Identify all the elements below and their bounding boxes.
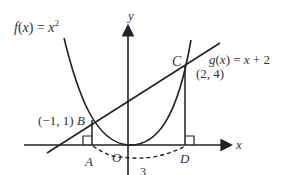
right-angle-A bbox=[83, 136, 92, 145]
dashed-arc bbox=[93, 146, 185, 158]
point-A-label: A bbox=[84, 154, 93, 169]
y-axis-label: y bbox=[126, 8, 134, 23]
point-C-label: C bbox=[172, 54, 182, 69]
point-B-coords: (−1, 1) bbox=[38, 113, 74, 128]
x-axis-label: x bbox=[235, 137, 242, 152]
f-label: f(x) = x2 bbox=[14, 18, 59, 36]
right-angle-D bbox=[185, 136, 194, 145]
graph-diagram: f(x) = x2 y x C (2, 4) g(x) = x + 2 (−1,… bbox=[0, 0, 285, 175]
point-C-coords: (2, 4) bbox=[196, 66, 224, 81]
origin-label: O bbox=[112, 150, 122, 165]
point-B-label: B bbox=[77, 113, 85, 128]
g-label: g(x) = x + 2 bbox=[209, 52, 270, 67]
point-D-label: D bbox=[179, 151, 190, 166]
arc-length-label: 3 bbox=[140, 165, 146, 175]
